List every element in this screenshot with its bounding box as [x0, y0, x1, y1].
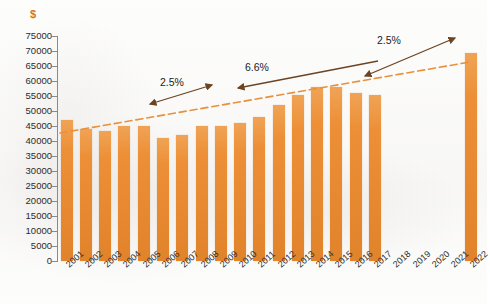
bar [350, 93, 362, 261]
bar [465, 53, 477, 262]
x-axis-tick-labels: 2001200220032004200520062007200820092010… [57, 262, 481, 304]
y-tick-mark [52, 216, 57, 217]
y-tick-mark [52, 36, 57, 37]
y-tick-label: 20000 [6, 196, 52, 206]
y-tick-label: 15000 [6, 211, 52, 221]
y-tick-label: 60000 [6, 76, 52, 86]
y-tick-label: 0 [6, 256, 52, 266]
y-tick-mark [52, 96, 57, 97]
y-tick-mark [52, 81, 57, 82]
y-tick-mark [52, 246, 57, 247]
bar [138, 126, 150, 261]
bar [80, 129, 92, 261]
annotation-rate-2: 6.6% [245, 61, 269, 73]
bar [61, 120, 73, 261]
bar [369, 95, 381, 262]
y-tick-mark [52, 141, 57, 142]
plot-area [57, 36, 481, 261]
annotation-rate-1: 2.5% [160, 76, 184, 88]
bar [311, 87, 323, 261]
y-tick-mark [52, 66, 57, 67]
bar [157, 138, 169, 261]
bar [176, 135, 188, 261]
annotation-rate-3: 2.5% [377, 34, 401, 46]
bar [292, 95, 304, 262]
y-tick-label: 25000 [6, 181, 52, 191]
y-tick-label: 5000 [6, 241, 52, 251]
y-tick-label: 55000 [6, 91, 52, 101]
y-tick-mark [52, 51, 57, 52]
bar [215, 126, 227, 261]
y-tick-label: 50000 [6, 106, 52, 116]
bar [99, 131, 111, 262]
y-tick-label: 40000 [6, 136, 52, 146]
bar [118, 126, 130, 261]
bar [253, 117, 265, 261]
bar [273, 105, 285, 261]
y-axis-tick-labels: 7500070000650006000055000500004500040000… [6, 0, 52, 304]
y-tick-mark [52, 186, 57, 187]
y-tick-mark [52, 231, 57, 232]
y-tick-mark [52, 156, 57, 157]
y-tick-label: 70000 [6, 46, 52, 56]
y-tick-mark [52, 261, 57, 262]
y-tick-label: 65000 [6, 61, 52, 71]
y-tick-mark [52, 111, 57, 112]
bar [196, 126, 208, 261]
y-tick-mark [52, 201, 57, 202]
y-tick-label: 45000 [6, 121, 52, 131]
bar [330, 87, 342, 261]
y-tick-mark [52, 171, 57, 172]
y-tick-label: 35000 [6, 151, 52, 161]
bar [234, 123, 246, 261]
y-tick-label: 10000 [6, 226, 52, 236]
y-tick-mark [52, 126, 57, 127]
y-tick-label: 75000 [6, 31, 52, 41]
y-tick-label: 30000 [6, 166, 52, 176]
